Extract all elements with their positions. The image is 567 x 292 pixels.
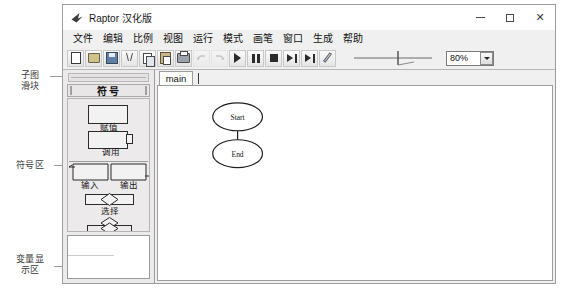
paste-button[interactable] — [157, 50, 174, 67]
window-title: Raptor 汉化版 — [89, 10, 465, 25]
zoom-select[interactable]: 80% — [446, 51, 494, 66]
step-over-icon — [287, 54, 297, 63]
floppy-disk-icon — [106, 52, 118, 64]
new-file-button[interactable] — [67, 50, 84, 67]
left-panel: 符号 赋值 调用 — [63, 70, 155, 283]
open-file-button[interactable] — [85, 50, 102, 67]
symbol-panel-header: 符号 — [67, 84, 150, 97]
symbol-selection[interactable]: 选择 — [84, 193, 136, 219]
menu-bar: 文件 编辑 比例 视图 运行 模式 画笔 窗口 生成 帮助 — [63, 30, 555, 47]
node-start-label: Start — [231, 113, 246, 122]
symbol-loop[interactable]: 循环 — [84, 217, 136, 232]
loop-shape-icon — [84, 217, 136, 232]
symbol-call[interactable]: 调用 — [88, 131, 134, 159]
zoom-value: 80% — [447, 53, 480, 63]
minimize-button[interactable] — [465, 6, 495, 30]
menu-file[interactable]: 文件 — [68, 30, 98, 47]
tab-strip: main — [155, 70, 555, 85]
scissors-icon — [125, 53, 134, 63]
copy-icon — [143, 53, 152, 64]
toolbar: 80% — [63, 47, 555, 70]
title-bar: Raptor 汉化版 ✕ — [63, 5, 555, 30]
call-side-icon — [126, 134, 136, 146]
step-into-button[interactable] — [301, 50, 318, 67]
pause-button[interactable] — [247, 50, 264, 67]
close-icon: ✕ — [535, 11, 544, 24]
print-button[interactable] — [175, 50, 192, 67]
speed-slider-graphic — [350, 47, 436, 69]
subchart-slider[interactable] — [68, 73, 149, 82]
save-button[interactable] — [103, 50, 120, 67]
clipboard-icon — [160, 52, 171, 64]
pencil-icon — [322, 53, 333, 64]
maximize-icon — [506, 14, 514, 22]
menu-window[interactable]: 窗口 — [278, 30, 308, 47]
right-panel: main Start End — [155, 70, 555, 283]
page-icon — [71, 52, 81, 64]
step-into-icon — [305, 54, 315, 63]
symbol-area: 赋值 调用 输 — [67, 98, 150, 232]
menu-mode[interactable]: 模式 — [218, 30, 248, 47]
pen-button[interactable] — [319, 50, 336, 67]
minimize-icon — [476, 17, 485, 18]
stop-icon — [270, 54, 278, 62]
subchart-slider-track — [71, 77, 146, 78]
annotation-subchart-slider: 子图 滑块 — [8, 70, 52, 92]
menu-scale[interactable]: 比例 — [128, 30, 158, 47]
redo-button[interactable] — [211, 50, 228, 67]
folder-open-icon — [88, 53, 100, 63]
redo-arrow-icon — [214, 54, 225, 63]
chevron-down-icon[interactable] — [480, 52, 493, 65]
stop-button[interactable] — [265, 50, 282, 67]
symbol-divider — [69, 161, 148, 162]
undo-button[interactable] — [193, 50, 210, 67]
step-button[interactable] — [283, 50, 300, 67]
symbol-assignment[interactable]: 赋值 — [88, 105, 130, 133]
symbol-panel-title: 符号 — [97, 83, 121, 98]
flowchart-graphic: Start End — [158, 86, 552, 280]
tab-main[interactable]: main — [159, 71, 193, 85]
variable-display-area[interactable] — [67, 235, 150, 279]
flowchart-canvas[interactable]: Start End — [157, 85, 553, 281]
annotation-symbol-area: 符号区 — [6, 160, 54, 171]
menu-edit[interactable]: 编辑 — [98, 30, 128, 47]
undo-arrow-icon — [196, 54, 207, 63]
application-window: Raptor 汉化版 ✕ 文件 编辑 比例 视图 运行 模式 画笔 窗口 生成 … — [62, 4, 556, 284]
copy-button[interactable] — [139, 50, 156, 67]
variable-display-rule — [68, 255, 114, 256]
printer-icon — [177, 53, 190, 63]
menu-help[interactable]: 帮助 — [338, 30, 368, 47]
symbol-header-nub-left — [70, 86, 72, 95]
annotation-variable-area: 变量显 示区 — [6, 254, 54, 276]
cut-button[interactable] — [121, 50, 138, 67]
window-body: 符号 赋值 调用 — [63, 70, 555, 283]
raptor-bird-icon — [70, 11, 84, 25]
maximize-button[interactable] — [495, 6, 525, 30]
run-button[interactable] — [229, 50, 246, 67]
menu-generate[interactable]: 生成 — [308, 30, 338, 47]
close-button[interactable]: ✕ — [525, 6, 555, 30]
speed-slider[interactable] — [350, 47, 436, 69]
play-icon — [234, 53, 241, 63]
node-end-label: End — [232, 150, 244, 159]
symbol-header-nub-right — [145, 86, 147, 95]
tab-caret — [198, 73, 199, 84]
symbol-output[interactable]: 输出 — [109, 163, 150, 191]
menu-run[interactable]: 运行 — [188, 30, 218, 47]
menu-pen[interactable]: 画笔 — [248, 30, 278, 47]
menu-view[interactable]: 视图 — [158, 30, 188, 47]
pause-icon — [252, 54, 260, 63]
